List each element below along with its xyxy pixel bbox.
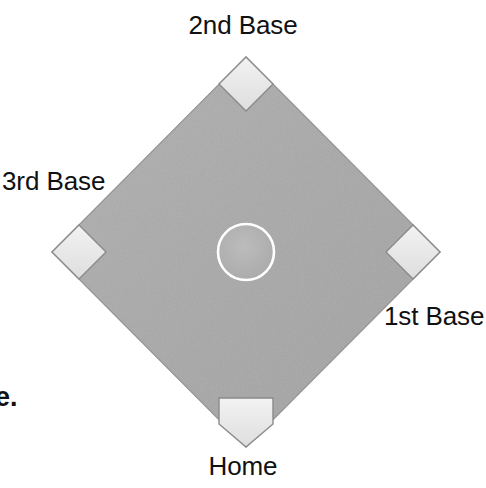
choice-marker-e: e. — [0, 382, 18, 413]
home-plate — [219, 398, 273, 447]
field-graphic — [0, 0, 486, 488]
home-plate-label: Home — [0, 453, 486, 481]
infield-diamond — [52, 57, 440, 447]
third-base-bag — [52, 225, 106, 279]
second-base-label: 2nd Base — [0, 12, 486, 40]
first-base-label: 1st Base — [384, 303, 484, 331]
second-base-bag — [219, 57, 273, 111]
pitchers-mound — [218, 224, 274, 280]
baseball-diamond-figure: 2nd Base 3rd Base 1st Base Home e. — [0, 0, 486, 488]
third-base-label: 3rd Base — [2, 168, 105, 196]
first-base-bag — [386, 225, 440, 279]
field-svg — [0, 0, 486, 488]
